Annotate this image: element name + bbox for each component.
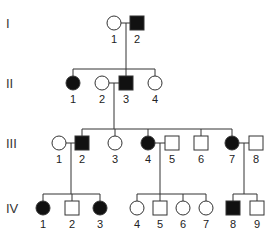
individual-number: 4 (134, 218, 140, 230)
individual-number: 6 (180, 218, 186, 230)
individual-number: 7 (203, 218, 209, 230)
female-unaffected-symbol (108, 136, 122, 150)
individual-number: 1 (40, 218, 46, 230)
male-unaffected-symbol (65, 201, 79, 215)
individual-number: 1 (70, 93, 76, 105)
male-unaffected-symbol (194, 136, 208, 150)
individual-number: 2 (79, 153, 85, 165)
individual-number: 9 (254, 218, 260, 230)
female-affected-symbol (36, 201, 50, 215)
individual-number: 3 (123, 93, 129, 105)
male-unaffected-symbol (165, 136, 179, 150)
female-unaffected-symbol (199, 201, 213, 215)
female-affected-symbol (66, 76, 80, 90)
individual-number: 4 (145, 153, 151, 165)
generation-label: IV (6, 201, 19, 216)
female-affected-symbol (141, 136, 155, 150)
female-unaffected-symbol (95, 76, 109, 90)
individual-number: 5 (169, 153, 175, 165)
female-unaffected-symbol (52, 136, 66, 150)
female-unaffected-symbol (130, 201, 144, 215)
female-affected-symbol (93, 201, 107, 215)
individual-number: 8 (230, 218, 236, 230)
male-affected-symbol (119, 76, 133, 90)
individual-number: 2 (99, 93, 105, 105)
female-affected-symbol (225, 136, 239, 150)
individual-number: 8 (253, 153, 259, 165)
generation-label: II (6, 76, 13, 91)
pedigree-chart: IIIIIIIV12123412345678123456789 (0, 0, 276, 239)
generation-label: I (6, 16, 10, 31)
female-unaffected-symbol (176, 201, 190, 215)
male-unaffected-symbol (249, 136, 263, 150)
individual-number: 3 (97, 218, 103, 230)
individual-number: 5 (157, 218, 163, 230)
individual-number: 7 (229, 153, 235, 165)
male-affected-symbol (75, 136, 89, 150)
male-affected-symbol (226, 201, 240, 215)
individual-number: 6 (198, 153, 204, 165)
individual-number: 2 (69, 218, 75, 230)
male-affected-symbol (130, 16, 144, 30)
generation-label: III (6, 136, 17, 151)
individual-number: 2 (134, 33, 140, 45)
individual-number: 3 (112, 153, 118, 165)
individual-number: 4 (152, 93, 158, 105)
male-unaffected-symbol (250, 201, 264, 215)
male-unaffected-symbol (153, 201, 167, 215)
individual-number: 1 (56, 153, 62, 165)
female-unaffected-symbol (107, 16, 121, 30)
individual-number: 1 (111, 33, 117, 45)
female-unaffected-symbol (148, 76, 162, 90)
